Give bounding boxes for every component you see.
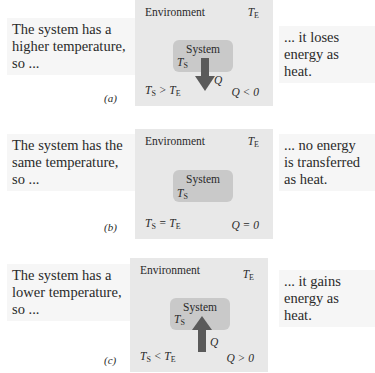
- environment-label: Environment: [145, 6, 205, 18]
- heat-arrow-down-icon: [195, 58, 215, 92]
- right-note: ... it loses energy as heat.: [279, 26, 375, 83]
- left-note-line: The system has a: [12, 267, 130, 284]
- temperature-condition: TS = TE: [145, 217, 181, 231]
- temperature-condition: TS < TE: [140, 350, 176, 364]
- right-note: ... no energy is transferred as heat.: [279, 134, 375, 191]
- panel-b: The system has the same temperature, so …: [0, 125, 375, 249]
- heat-condition: Q < 0: [231, 86, 259, 98]
- left-note-line: same temperature,: [12, 154, 130, 171]
- left-note-line: so ...: [12, 171, 130, 188]
- left-note-line: so ...: [12, 301, 130, 318]
- left-note: The system has a higher temperature, so …: [7, 18, 135, 75]
- left-note-line: The system has a: [12, 21, 130, 38]
- left-note-line: so ...: [12, 55, 130, 72]
- right-note-line: ... it loses: [284, 29, 370, 46]
- system-label: System: [170, 301, 230, 313]
- environment-box: Environment TE System TS TS = TE Q = 0: [135, 129, 273, 239]
- environment-box: Environment TE System TS Q TS > TE Q < 0: [135, 0, 273, 106]
- right-note-line: ... no energy: [284, 137, 370, 154]
- right-note-line: as heat.: [284, 171, 370, 188]
- left-note-line: higher temperature,: [12, 38, 130, 55]
- panel-a: The system has a higher temperature, so …: [0, 0, 375, 124]
- sys-temperature: TS: [177, 56, 188, 70]
- right-note-line: heat.: [284, 307, 370, 324]
- left-note-line: lower temperature,: [12, 284, 130, 301]
- right-note-line: energy as heat.: [284, 46, 370, 80]
- heat-arrow-up-icon: [192, 316, 212, 352]
- right-note-line: energy as: [284, 290, 370, 307]
- environment-label: Environment: [140, 264, 200, 276]
- temperature-condition: TS > TE: [145, 84, 181, 98]
- left-note: The system has a lower temperature, so .…: [7, 264, 135, 321]
- heat-label: Q: [210, 336, 218, 348]
- heat-condition: Q = 0: [231, 219, 259, 231]
- heat-condition: Q > 0: [226, 352, 254, 364]
- right-note-line: ... it gains: [284, 273, 370, 290]
- panel-tag: (c): [104, 354, 116, 366]
- left-note: The system has the same temperature, so …: [7, 134, 135, 191]
- environment-label: Environment: [145, 135, 205, 147]
- env-temperature: TE: [243, 268, 254, 282]
- heat-label: Q: [214, 74, 222, 86]
- sys-temperature: TS: [177, 187, 188, 201]
- panel-tag: (b): [104, 221, 117, 233]
- env-temperature: TE: [248, 135, 259, 149]
- sys-temperature: TS: [174, 313, 185, 327]
- left-note-line: The system has the: [12, 137, 130, 154]
- system-label: System: [173, 43, 233, 55]
- panel-c: The system has a lower temperature, so .…: [0, 248, 375, 372]
- right-note-line: is transferred: [284, 154, 370, 171]
- panel-tag: (a): [104, 92, 117, 104]
- env-temperature: TE: [248, 6, 259, 20]
- system-label: System: [173, 173, 233, 185]
- right-note: ... it gains energy as heat.: [279, 270, 375, 327]
- environment-box: Environment TE System TS Q TS < TE Q > 0: [130, 258, 268, 372]
